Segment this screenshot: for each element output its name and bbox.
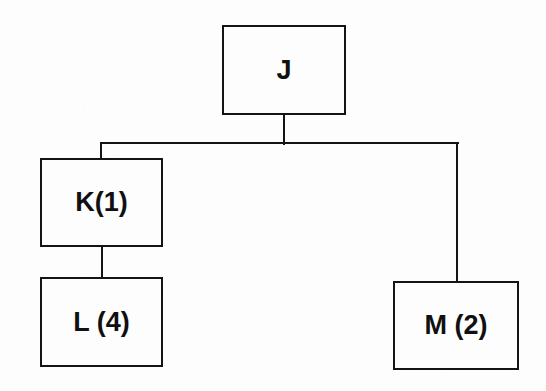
connector-horizontal-bus (100, 142, 459, 144)
node-label-m: M (2) (425, 312, 488, 339)
node-label-l: L (4) (73, 309, 130, 336)
node-label-k: K(1) (75, 189, 128, 216)
node-box-k[interactable]: K(1) (40, 158, 163, 247)
connector-k-to-l (101, 245, 103, 279)
node-box-l[interactable]: L (4) (40, 277, 163, 367)
connector-bus-to-m (456, 142, 458, 283)
node-box-j[interactable]: J (222, 25, 346, 115)
diagram-canvas: J K(1) M (2) L (4) (0, 0, 546, 391)
node-box-m[interactable]: M (2) (393, 281, 519, 370)
connector-j-to-bus (283, 113, 285, 145)
node-label-j: J (276, 57, 291, 84)
